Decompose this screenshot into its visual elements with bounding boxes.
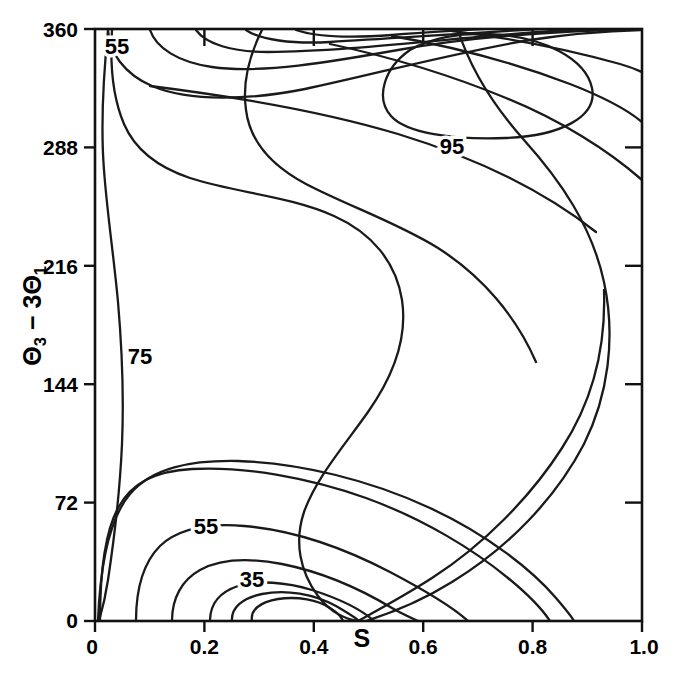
- y-tick-label-72: 72: [55, 491, 78, 514]
- contour-label-55-bottom: 55: [194, 514, 218, 539]
- y-axis-title-minus: − 3: [18, 295, 46, 337]
- y-tick-label-288: 288: [43, 136, 78, 159]
- y-axis-title-theta3: Θ: [18, 346, 46, 365]
- y-axis-title-theta1: Θ: [18, 275, 46, 294]
- y-axis-title: Θ3 − 3Θ1: [18, 206, 50, 426]
- x-axis-title: S: [0, 624, 680, 653]
- contour-plot-figure: 360 288 216 144 72 0 0 0.2 0.4 0.6 0.8 1…: [0, 0, 680, 678]
- x-axis-title-text: S: [353, 624, 370, 653]
- contour-label-95: 95: [440, 134, 464, 159]
- y-tick-label-360: 360: [43, 18, 78, 41]
- contour-bottom-outer-right: [98, 461, 574, 621]
- contour-curve-group: [98, 26, 646, 621]
- contour-bottom-ring-3: [172, 560, 418, 621]
- contour-label-75: 75: [128, 344, 152, 369]
- contour-75-inner-upper: [245, 30, 536, 362]
- y-axis-title-sub3: 3: [31, 337, 49, 346]
- contour-label-35: 35: [240, 567, 264, 592]
- contour-75-s-curve: [111, 30, 403, 621]
- contour-sweep-3: [392, 36, 642, 122]
- contour-55-bottom: [136, 525, 468, 621]
- contour-right-foot: [358, 290, 604, 621]
- contour-label-55-top: 55: [105, 34, 129, 59]
- y-axis-title-sub1: 1: [31, 266, 49, 275]
- contour-sweep-2: [330, 44, 642, 180]
- y-axis-ticks-left: [84, 29, 95, 621]
- y-axis-ticks-right: [625, 147, 642, 502]
- plot-frame: [95, 29, 642, 621]
- contour-plot-canvas: 360 288 216 144 72 0 0 0.2 0.4 0.6 0.8 1…: [0, 0, 680, 678]
- contour-level-labels: 55 55 95 95 75 75 55 55 35 35: [105, 34, 464, 592]
